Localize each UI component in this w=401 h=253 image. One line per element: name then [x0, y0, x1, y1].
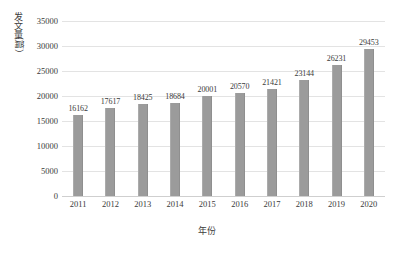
bar-chart-figure: 发 文 量 （篇） 050001000015000200002500030000…: [0, 0, 401, 253]
y-axis-tick-label: 30000: [24, 41, 58, 51]
x-axis-title: 年份: [0, 224, 401, 237]
bar-value-label: 26231: [327, 54, 347, 63]
bar-slot: 20001: [191, 21, 223, 196]
x-axis-tick-label: 2012: [94, 199, 126, 209]
bar-slot: 23144: [288, 21, 320, 196]
x-axis-tick-label: 2013: [127, 199, 159, 209]
bar-slot: 18684: [159, 21, 191, 196]
bar-slot: 20570: [224, 21, 256, 196]
bar[interactable]: [364, 49, 374, 196]
bar-value-label: 23144: [294, 69, 314, 78]
bar-value-label: 20570: [230, 82, 250, 91]
bar-slot: 17617: [94, 21, 126, 196]
gridline: [62, 196, 385, 197]
bar-series: 1616217617184251868420001205702142123144…: [62, 21, 385, 196]
plot-area: 1616217617184251868420001205702142123144…: [62, 21, 385, 196]
bar[interactable]: [105, 108, 115, 196]
y-axis-tick-label: 15000: [24, 116, 58, 126]
bar-value-label: 18425: [133, 93, 153, 102]
bar[interactable]: [170, 103, 180, 196]
y-axis-title-unit: （篇）: [14, 31, 22, 58]
bar-value-label: 16162: [68, 104, 88, 113]
x-axis-tick-label: 2015: [191, 199, 223, 209]
bar-value-label: 18684: [165, 92, 185, 101]
bar-slot: 26231: [320, 21, 352, 196]
x-axis-tick-label: 2017: [256, 199, 288, 209]
bar[interactable]: [138, 104, 148, 196]
x-axis-tick-labels: 2011201220132014201520162017201820192020: [62, 199, 385, 213]
bar[interactable]: [202, 96, 212, 196]
x-axis-tick-label: 2018: [288, 199, 320, 209]
bar[interactable]: [332, 65, 342, 196]
bar-value-label: 29453: [359, 38, 379, 47]
y-axis-tick-label: 25000: [24, 66, 58, 76]
bar-slot: 29453: [353, 21, 385, 196]
x-axis-tick-label: 2019: [320, 199, 352, 209]
bar-value-label: 17617: [101, 97, 121, 106]
bar[interactable]: [299, 80, 309, 196]
x-axis-tick-label: 2011: [62, 199, 94, 209]
y-axis-tick-label: 20000: [24, 91, 58, 101]
bar[interactable]: [73, 115, 83, 196]
y-axis-tick-labels: 05000100001500020000250003000035000: [22, 21, 58, 196]
x-axis-tick-label: 2016: [224, 199, 256, 209]
x-axis-tick-label: 2014: [159, 199, 191, 209]
y-axis-tick-label: 0: [24, 191, 58, 201]
x-axis-tick-label: 2020: [353, 199, 385, 209]
y-axis-tick-label: 35000: [24, 16, 58, 26]
y-axis-tick-label: 10000: [24, 141, 58, 151]
y-axis-tick-label: 5000: [24, 166, 58, 176]
bar-slot: 18425: [127, 21, 159, 196]
bar[interactable]: [235, 93, 245, 196]
bar-slot: 21421: [256, 21, 288, 196]
bar-value-label: 21421: [262, 78, 282, 87]
bar-slot: 16162: [62, 21, 94, 196]
bar[interactable]: [267, 89, 277, 196]
bar-value-label: 20001: [198, 85, 218, 94]
